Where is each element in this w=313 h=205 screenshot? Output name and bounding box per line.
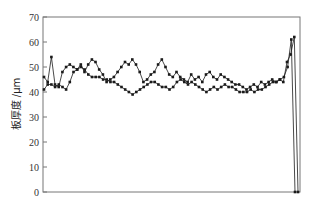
data-point-marker (253, 83, 256, 86)
data-point-marker (153, 71, 156, 74)
data-point-marker (146, 83, 149, 86)
data-point-marker (131, 93, 134, 96)
data-point-marker (183, 81, 186, 84)
data-point-marker (194, 83, 197, 86)
data-point-marker (113, 81, 116, 84)
data-point-marker (124, 61, 127, 64)
data-point-marker (87, 63, 90, 66)
data-point-marker (80, 63, 83, 66)
data-point-marker (157, 63, 160, 66)
y-tick-label: 20 (29, 137, 39, 148)
data-point-marker (131, 58, 134, 61)
data-point-marker (117, 83, 120, 86)
data-point-marker (201, 81, 204, 84)
y-tick-label: 40 (29, 87, 39, 98)
data-point-marker (194, 78, 197, 81)
data-point-marker (205, 73, 208, 76)
data-point-marker (242, 91, 245, 94)
data-point-marker (282, 81, 285, 84)
data-point-marker (139, 88, 142, 91)
data-point-marker (187, 83, 190, 86)
data-point-marker (94, 61, 97, 64)
data-point-marker (272, 81, 275, 84)
data-point-marker (150, 73, 153, 76)
data-point-marker (227, 86, 230, 89)
data-point-marker (190, 81, 193, 84)
data-point-marker (209, 88, 212, 91)
data-point-marker (98, 68, 101, 71)
data-point-marker (150, 81, 153, 84)
data-point-marker (186, 81, 189, 84)
data-point-marker (102, 73, 105, 76)
data-point-marker (168, 73, 171, 76)
data-point-marker (267, 81, 270, 84)
data-point-marker (116, 71, 119, 74)
data-point-marker (230, 81, 233, 84)
data-point-marker (135, 91, 138, 94)
data-point-marker (76, 68, 79, 71)
data-point-marker (113, 76, 116, 79)
data-point-marker (135, 63, 138, 66)
data-point-marker (72, 71, 75, 74)
y-tick-label: 0 (34, 187, 39, 198)
series-line-1 (44, 40, 295, 193)
data-point-marker (98, 76, 101, 79)
data-point-marker (72, 66, 75, 69)
data-point-marker (120, 86, 123, 89)
data-point-marker (179, 76, 182, 79)
data-series (43, 36, 300, 194)
data-point-marker (227, 78, 230, 81)
data-point-marker (278, 78, 281, 81)
data-point-marker (109, 78, 112, 81)
data-point-marker (235, 88, 238, 91)
y-tick-label: 50 (29, 62, 39, 73)
data-point-marker (102, 78, 105, 81)
data-point-marker (238, 91, 241, 94)
data-point-marker (289, 53, 292, 56)
data-point-marker (249, 88, 252, 91)
data-point-marker (142, 81, 145, 84)
data-point-marker (43, 88, 46, 91)
data-point-marker (246, 91, 249, 94)
data-point-marker (127, 63, 130, 66)
y-axis-label: 板厚度 /μm (10, 78, 22, 131)
data-point-marker (216, 78, 219, 81)
data-point-marker (275, 81, 278, 84)
data-point-marker (94, 76, 97, 79)
data-point-marker (268, 83, 271, 86)
data-point-marker (197, 76, 200, 79)
data-point-marker (65, 66, 68, 69)
data-point-marker (264, 86, 267, 89)
data-point-marker (183, 78, 186, 81)
data-point-marker (87, 73, 90, 76)
data-point-marker (142, 86, 145, 89)
data-point-marker (286, 66, 289, 69)
data-point-marker (231, 86, 234, 89)
data-point-marker (234, 83, 237, 86)
data-point-marker (242, 86, 245, 89)
data-point-marker (212, 76, 215, 79)
data-point-marker (69, 63, 72, 66)
data-point-marker (294, 191, 297, 194)
data-point-marker (261, 88, 264, 91)
data-point-marker (105, 81, 108, 84)
data-point-marker (138, 71, 141, 74)
data-point-marker (220, 86, 223, 89)
data-point-marker (179, 78, 182, 81)
data-point-marker (260, 81, 263, 84)
series-line-2 (44, 37, 298, 192)
data-point-marker (91, 58, 94, 61)
data-point-marker (157, 83, 160, 86)
data-point-marker (172, 76, 175, 79)
data-point-marker (153, 81, 156, 84)
data-point-marker (219, 73, 222, 76)
data-point-marker (213, 86, 216, 89)
data-point-marker (54, 86, 57, 89)
data-point-marker (120, 66, 123, 69)
data-point-marker (146, 78, 149, 81)
data-point-marker (161, 58, 164, 61)
data-point-marker (57, 86, 60, 89)
data-point-marker (65, 88, 68, 91)
y-tick-label: 70 (29, 12, 39, 23)
data-point-marker (172, 86, 175, 89)
